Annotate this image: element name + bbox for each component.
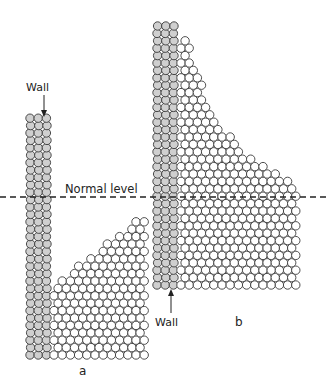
panel-a-particle-pile	[50, 218, 149, 360]
panel-b-particle-pile	[177, 37, 300, 290]
normal-level-label: Normal level	[65, 182, 138, 196]
panel-b-label: b	[235, 315, 243, 329]
panel-a-wall	[26, 114, 51, 359]
wall-b-label: Wall	[155, 316, 178, 329]
wall-a-label: Wall	[26, 81, 49, 94]
particle-wall-diagram: Normal level Wall Wall a b	[0, 0, 328, 382]
panel-a-label: a	[79, 364, 86, 378]
panel-b-wall	[153, 22, 178, 289]
wall-b-arrow-icon	[168, 289, 174, 313]
